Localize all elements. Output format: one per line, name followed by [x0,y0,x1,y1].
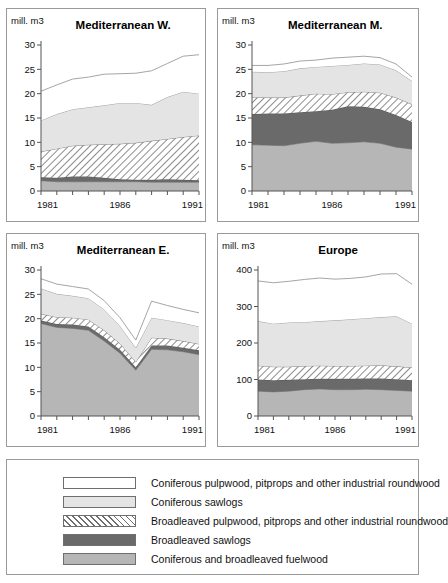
y-axis-tick-label: 30 [24,264,35,275]
x-axis-tick-label: 1991 [182,424,203,435]
y-axis-tick-label: 400 [236,264,252,275]
legend-swatch-fuel [63,553,136,565]
legend-item: Coniferous and broadleaved fuelwood [7,549,418,568]
y-axis-tick-label: 15 [24,112,35,123]
legend-label: Broadleaved sawlogs [151,534,251,546]
y-axis-tick-label: 20 [235,88,246,99]
y-axis-tick-label: 200 [236,337,252,348]
y-axis-tick-label: 0 [30,410,35,421]
chart-panel-mediterranean-e: mill. m3Mediterranean E.0510152025301981… [6,233,206,447]
chart-title: Mediterranean M. [288,19,383,31]
y-axis-tick-label: 0 [247,410,252,421]
y-axis-tick-label: 25 [235,64,246,75]
y-axis-tick-label: 30 [24,39,35,50]
legend-swatch-conif-saw [63,496,136,508]
legend-item: Broadleaved sawlogs [7,530,418,549]
y-axis-tick-label: 25 [24,289,35,300]
x-axis-tick-label: 1981 [248,199,269,210]
y-axis-tick-label: 100 [236,374,252,385]
y-axis-tick-label: 30 [235,39,246,50]
y-axis-tick-label: 0 [30,185,35,196]
legend-label: Coniferous sawlogs [151,496,243,508]
x-axis-tick-label: 1986 [109,199,130,210]
x-axis-tick-label: 1991 [395,424,416,435]
chart-panel-europe: mill. m3Europe0100200300400198119861991 [217,233,419,447]
y-axis-tick-label: 5 [30,386,35,397]
y-axis-tick-label: 10 [235,137,246,148]
x-axis-tick-label: 1981 [37,424,58,435]
legend-label: Coniferous pulpwood, pitprops and other … [151,477,440,489]
chart-title: Europe [318,244,358,256]
y-axis-tick-label: 20 [24,313,35,324]
area-band-conif-saw [258,316,412,367]
y-axis-tick-label: 300 [236,301,252,312]
y-axis-tick-label: 15 [24,337,35,348]
y-axis-tick-label: 20 [24,88,35,99]
legend-item: Broadleaved pulpwood, pitprops and other… [7,511,418,530]
y-axis-tick-label: 10 [24,137,35,148]
x-axis-tick-label: 1986 [324,424,345,435]
chart-title: Mediterranean W. [76,19,171,31]
legend-swatch-conif-pulp [63,477,136,489]
area-band-fuel [252,141,412,191]
x-axis-tick-label: 1981 [254,424,275,435]
chart-panel-mediterranean-m: mill. m3Mediterranean M.0510152025301981… [217,8,419,222]
x-axis-tick-label: 1986 [321,199,342,210]
legend-item: Coniferous pulpwood, pitprops and other … [7,473,418,492]
chart-panel-mediterranean-w: mill. m3Mediterranean W.0510152025301981… [6,8,206,222]
y-axis-unit-label: mill. m3 [11,15,44,26]
y-axis-unit-label: mill. m3 [11,240,44,251]
y-axis-unit-label: mill. m3 [222,15,255,26]
legend-panel: Coniferous pulpwood, pitprops and other … [6,459,419,575]
legend-swatch-broad-pulp [63,515,136,527]
legend-item: Coniferous sawlogs [7,492,418,511]
y-axis-unit-label: mill. m3 [222,240,255,251]
area-band-conif-pulp [258,274,412,324]
y-axis-tick-label: 5 [241,161,246,172]
legend-label: Broadleaved pulpwood, pitprops and other… [151,515,448,527]
x-axis-tick-label: 1986 [109,424,130,435]
legend-label: Coniferous and broadleaved fuelwood [151,553,328,565]
x-axis-tick-label: 1991 [395,199,416,210]
y-axis-tick-label: 10 [24,362,35,373]
x-axis-tick-label: 1991 [182,199,203,210]
legend-list: Coniferous pulpwood, pitprops and other … [7,460,418,574]
legend-swatch-broad-saw [63,534,136,546]
y-axis-tick-label: 5 [30,161,35,172]
area-band-fuel [258,389,412,416]
y-axis-tick-label: 25 [24,64,35,75]
x-axis-tick-label: 1981 [37,199,58,210]
chart-title: Mediterranean E. [77,244,170,256]
y-axis-tick-label: 0 [241,185,246,196]
y-axis-tick-label: 15 [235,112,246,123]
area-band-broad-pulp [258,365,412,380]
